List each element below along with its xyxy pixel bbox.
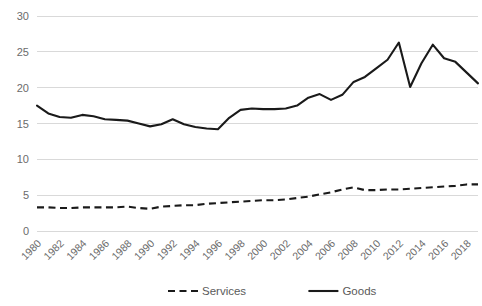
x-tick-label: 1984	[64, 237, 89, 262]
y-axis-tick-labels: 051015202530	[17, 10, 29, 237]
x-axis-tick-labels: 1980198219841986198819901992199419961998…	[18, 237, 473, 262]
y-tick-label: 5	[23, 189, 29, 201]
x-tick-label: 2012	[380, 237, 405, 262]
x-tick-label: 1982	[41, 237, 66, 262]
x-tick-label: 1998	[222, 237, 247, 262]
series-line-services	[37, 184, 478, 208]
x-tick-label: 2010	[358, 237, 383, 262]
chart-legend: ServicesGoods	[168, 285, 377, 297]
line-chart: 051015202530 198019821984198619881990199…	[0, 0, 482, 306]
y-tick-label: 15	[17, 118, 29, 130]
x-tick-label: 2018	[448, 237, 473, 262]
legend-label-services: Services	[202, 285, 246, 297]
y-tick-label: 10	[17, 153, 29, 165]
x-tick-label: 1990	[131, 237, 156, 262]
y-tick-label: 30	[17, 10, 29, 22]
y-tick-label: 20	[17, 82, 29, 94]
x-tick-label: 1996	[199, 237, 224, 262]
x-tick-label: 1980	[18, 237, 43, 262]
gridline-group	[37, 16, 478, 231]
x-tick-label: 2014	[403, 237, 428, 262]
x-tick-label: 1988	[109, 237, 134, 262]
x-tick-label: 2000	[245, 237, 270, 262]
plot-area: 051015202530 198019821984198619881990199…	[0, 0, 482, 306]
x-tick-label: 1986	[86, 237, 111, 262]
chart-canvas: 051015202530 198019821984198619881990199…	[0, 0, 482, 306]
x-tick-label: 1994	[177, 237, 202, 262]
x-tick-label: 2002	[267, 237, 292, 262]
x-tick-label: 2006	[312, 237, 337, 262]
series-line-goods	[37, 43, 478, 130]
x-tick-label: 1992	[154, 237, 179, 262]
series-group	[37, 43, 478, 209]
x-tick-label: 2016	[425, 237, 450, 262]
legend-label-goods: Goods	[342, 285, 376, 297]
y-tick-label: 0	[23, 225, 29, 237]
x-tick-label: 2004	[290, 237, 315, 262]
y-tick-label: 25	[17, 46, 29, 58]
x-tick-label: 2008	[335, 237, 360, 262]
